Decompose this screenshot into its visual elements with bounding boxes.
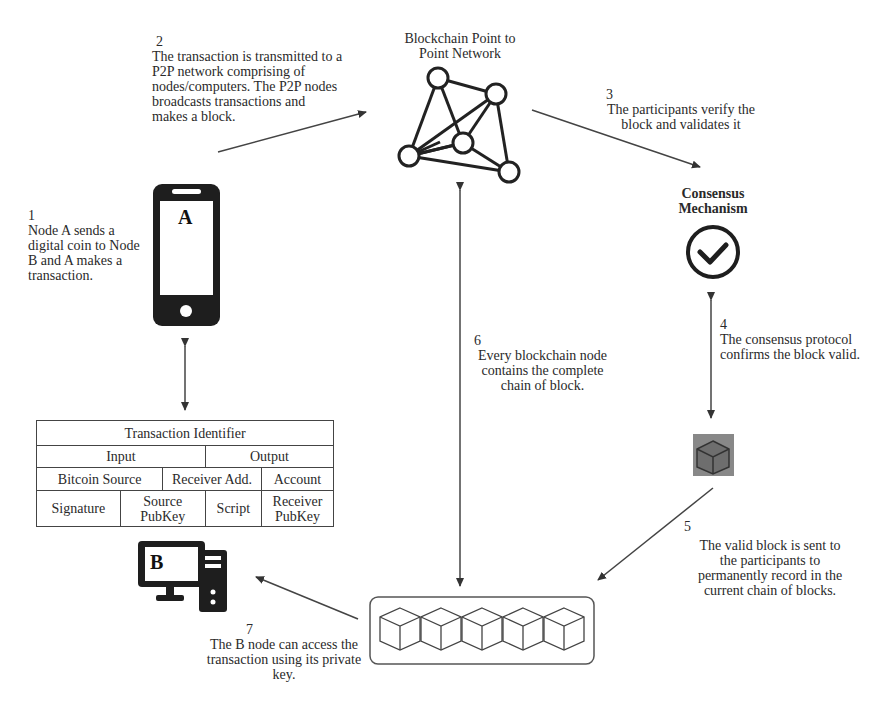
table-cell-bitcoin-source: Bitcoin Source [37,468,163,491]
consensus-label-line1: Consensus [660,186,766,201]
step-3-number: 3 [596,87,766,102]
network-label: Blockchain Point to Point Network [390,31,530,61]
step-3-annotation: 3 The participants verify the block and … [596,87,766,132]
step-7-line: The B node can access the [198,637,370,652]
table-cell-output: Output [205,446,333,468]
step-6-line: chain of block. [470,378,615,393]
step-1-line: Node A sends a [28,223,140,238]
step-7-annotation: 7 The B node can access the transaction … [198,622,370,682]
consensus-label: Consensus Mechanism [660,186,766,216]
step-5-number: 5 [684,519,856,534]
arrow-step-7 [256,577,358,619]
step-6-line: contains the complete [470,363,615,378]
step-5-line: The valid block is sent to [684,538,856,553]
blockchain-chain [370,597,594,664]
network-label-line1: Blockchain Point to [390,31,530,46]
step-3-line: block and validates it [596,117,766,132]
node-b-label: B [150,551,163,574]
node-a-label: A [178,206,192,229]
step-4-line: The consensus protocol [720,332,860,347]
step-2-line: broadcasts transactions and [152,94,342,109]
table-cell-input: Input [37,446,206,468]
table-cell-script: Script [205,491,261,527]
network-label-line2: Point Network [390,46,530,61]
table-cell-receiver-pubkey: Receiver PubKey [261,491,333,527]
step-1-line: B and A makes a [28,253,140,268]
step-1-line: digital coin to Node [28,238,140,253]
step-5-line: the participants to [684,553,856,568]
table-cell-account: Account [261,468,333,491]
step-6-number: 6 [470,333,615,348]
step-3-line: The participants verify the [596,102,766,117]
table-cell-signature: Signature [37,491,121,527]
step-7-number: 7 [198,622,370,637]
step-6-annotation: 6 Every blockchain node contains the com… [470,333,615,393]
step-2-line: makes a block. [152,109,342,124]
step-1-line: transaction. [28,268,140,283]
step-7-line: transaction using its private [198,652,370,667]
consensus-label-line2: Mechanism [660,201,766,216]
step-1-annotation: 1 Node A sends a digital coin to Node B … [28,208,140,283]
table-cell-receiver-address: Receiver Add. [163,468,262,491]
step-5-annotation: 5 The valid block is sent to the partici… [684,519,856,598]
step-2-line: The transaction is transmitted to a [152,49,342,64]
p2p-network-icon [399,68,519,182]
check-circle-icon [688,227,738,277]
step-7-line: key. [198,667,370,682]
step-2-number: 2 [152,34,342,49]
step-2-line: P2P network comprising of [152,64,342,79]
step-4-line: confirms the block valid. [720,347,860,362]
step-2-annotation: 2 The transaction is transmitted to a P2… [152,34,342,124]
step-2-line: nodes/computers. The P2P nodes [152,79,342,94]
step-1-number: 1 [28,208,140,223]
transaction-structure-table: Transaction Identifier Input Output Bitc… [36,420,334,527]
step-5-line: permanently record in the [684,568,856,583]
step-4-annotation: 4 The consensus protocol confirms the bl… [720,317,860,362]
table-header-transaction-identifier: Transaction Identifier [37,421,334,446]
validated-block-icon [693,434,734,476]
step-4-number: 4 [720,317,860,332]
table-cell-source-pubkey: Source PubKey [120,491,205,527]
step-6-line: Every blockchain node [470,348,615,363]
step-5-line: current chain of blocks. [684,583,856,598]
